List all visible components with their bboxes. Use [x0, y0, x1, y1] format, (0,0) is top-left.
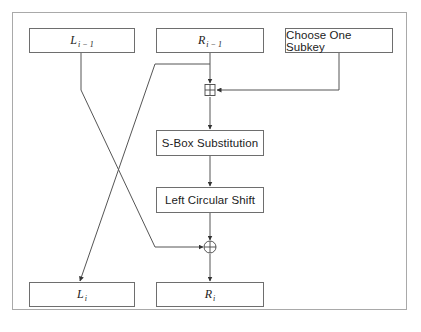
l-prev-label: Li − 1 [70, 33, 93, 49]
sbox-box: S-Box Substitution [156, 130, 264, 156]
r-next-box: Ri [156, 282, 264, 307]
subkey-label: Choose One Subkey [286, 29, 392, 53]
subkey-box: Choose One Subkey [285, 28, 393, 53]
l-prev-box: Li − 1 [29, 28, 135, 53]
r-prev-box: Ri − 1 [156, 28, 264, 53]
l-next-label: Li [77, 287, 87, 303]
r-prev-label: Ri − 1 [198, 33, 222, 49]
diagram-frame [12, 12, 407, 310]
shift-label: Left Circular Shift [165, 194, 255, 206]
l-next-box: Li [29, 282, 135, 307]
shift-box: Left Circular Shift [156, 187, 264, 213]
sbox-label: S-Box Substitution [162, 137, 258, 149]
r-next-label: Ri [205, 287, 216, 303]
